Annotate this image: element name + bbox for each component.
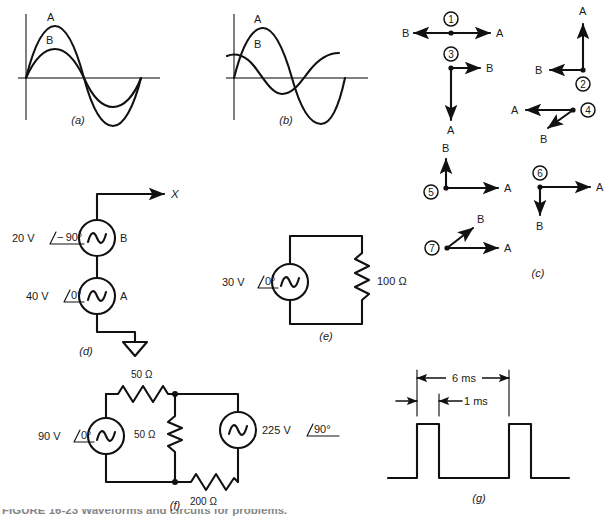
source-right-angle: 90° xyxy=(314,423,331,435)
phasor-4-label-a: A xyxy=(511,104,519,116)
source-magnitude: 30 V xyxy=(222,276,245,288)
phasor-3-origin xyxy=(448,65,453,70)
panel-e: 30 V 0° 100 Ω (e) xyxy=(222,228,412,343)
wire-bottom xyxy=(290,307,362,324)
period-label: 6 ms xyxy=(452,372,476,384)
phasor-5: A B 5 xyxy=(424,142,512,199)
phasor-5-label-a: A xyxy=(504,182,512,194)
panel-d-circuit: X B 20 V − 90° A 40 V 0° ( xyxy=(8,166,198,356)
phasor-2: A B 2 xyxy=(535,5,590,91)
source-right-sine xyxy=(229,425,247,435)
figure-caption-strip: FIGURE 16-23 Waveforms and circuits for … xyxy=(0,509,605,518)
phasor-1-origin xyxy=(448,30,453,35)
panel-c-caption: (c) xyxy=(532,267,545,279)
source-b-name: B xyxy=(120,232,127,244)
resistor-middle-symbol xyxy=(168,394,182,482)
panel-g: 6 ms 1 ms (g) xyxy=(384,356,599,506)
ground-icon xyxy=(123,342,147,356)
phasor-3-number: 3 xyxy=(448,49,454,60)
resistor-symbol xyxy=(355,253,369,307)
source-a-angle: 0° xyxy=(71,289,82,301)
panel-f: 50 Ω 50 Ω 200 Ω 90 V 0° xyxy=(8,366,343,511)
source-a-name: A xyxy=(120,290,128,302)
panel-f-circuit: 50 Ω 50 Ω 200 Ω 90 V 0° xyxy=(8,366,343,511)
pulse-train xyxy=(388,424,569,478)
phasor-6: A B 6 xyxy=(533,166,604,232)
panel-c-phasors: A B 1 A B 2 A B xyxy=(418,2,605,282)
panel-d: X B 20 V − 90° A 40 V 0° ( xyxy=(8,166,198,356)
source-b-angle: − 90° xyxy=(57,231,82,243)
panel-b-graph: A B (b) xyxy=(218,8,398,128)
phasor-6-origin xyxy=(537,184,542,189)
bottom-wire xyxy=(97,314,135,342)
phasor-7-origin xyxy=(444,245,449,250)
phasor-6-number: 6 xyxy=(537,168,543,179)
phasor-7: A B 7 xyxy=(425,213,512,255)
phasor-7-label-a: A xyxy=(504,242,512,254)
resistor-label: 100 Ω xyxy=(377,275,407,287)
panel-g-waveform: 6 ms 1 ms (g) xyxy=(384,356,599,506)
phasor-6-label-b: B xyxy=(536,220,543,232)
source-angle-group: 0° xyxy=(258,275,278,288)
resistor-top-symbol xyxy=(106,386,175,402)
phasor-4-arrow-b xyxy=(548,110,573,128)
top-wire xyxy=(97,194,148,220)
source-left-sine xyxy=(97,431,115,441)
source-left-magnitude: 90 V xyxy=(38,430,61,442)
phasor-4-number: 4 xyxy=(585,105,591,116)
phasor-3: A B 3 xyxy=(444,47,493,136)
panel-g-caption: (g) xyxy=(472,492,486,504)
phasor-2-label-a: A xyxy=(579,5,587,17)
source-b-magnitude: 20 V xyxy=(12,232,35,244)
resistor-bottom-symbol xyxy=(175,474,238,490)
phasor-5-origin xyxy=(443,185,448,190)
phasor-4: A B 4 xyxy=(511,103,595,145)
phasor-1-number: 1 xyxy=(448,14,454,25)
phasor-6-label-a: A xyxy=(596,181,604,193)
phasor-2-label-b: B xyxy=(535,64,542,76)
waveform-a-label: A xyxy=(254,13,262,25)
phasor-3-label-a: A xyxy=(447,124,455,136)
phasor-2-origin xyxy=(580,67,585,72)
source-b-angle-group: − 90° xyxy=(50,231,84,244)
panel-e-caption: (e) xyxy=(319,330,333,342)
waveform-b-label: B xyxy=(46,34,53,46)
panel-d-caption: (d) xyxy=(79,345,93,357)
phasor-4-origin xyxy=(570,107,575,112)
waveform-a xyxy=(234,28,345,124)
waveform-a-label: A xyxy=(47,11,55,23)
source-left-angle-group: 0° xyxy=(74,429,94,442)
pulse-width-label: 1 ms xyxy=(464,395,488,407)
resistor-bottom-label: 200 Ω xyxy=(190,496,217,507)
phasor-1-label-a: A xyxy=(496,27,504,39)
axis-label-x: X xyxy=(170,188,180,200)
wire-left-bottom xyxy=(106,454,175,482)
source-angle: 0° xyxy=(265,275,276,287)
phasor-5-number: 5 xyxy=(428,187,434,198)
source-a-sine xyxy=(88,291,106,301)
wire-top-right xyxy=(175,394,238,412)
node-top xyxy=(172,391,178,397)
source-a-magnitude: 40 V xyxy=(26,290,49,302)
figure-caption: FIGURE 16-23 Waveforms and circuits for … xyxy=(2,509,287,516)
panel-b: A B (b) xyxy=(218,8,398,128)
panel-a-graph: A B (a) xyxy=(10,8,190,128)
figure-container: A B (a) A B (b) xyxy=(0,0,605,518)
source-right-magnitude: 225 V xyxy=(262,424,291,436)
phasor-1-label-b: B xyxy=(402,27,409,39)
waveform-b-label: B xyxy=(254,38,261,50)
panel-a-caption: (a) xyxy=(71,114,85,126)
phasor-4-label-b: B xyxy=(540,133,547,145)
panel-e-circuit: 30 V 0° 100 Ω (e) xyxy=(222,228,412,343)
phasor-7-arrow-b xyxy=(447,228,473,248)
wire-top xyxy=(290,236,362,264)
source-left-angle: 0° xyxy=(81,429,92,441)
source-right-angle-group: 90° xyxy=(307,423,339,436)
phasor-7-label-b: B xyxy=(477,213,484,225)
phasor-2-number: 2 xyxy=(580,79,586,90)
panel-c: A B 1 A B 2 A B xyxy=(418,2,605,282)
phasor-7-number: 7 xyxy=(429,243,435,254)
phasor-1: A B 1 xyxy=(402,12,504,39)
phasor-3-label-b: B xyxy=(486,62,493,74)
phasor-5-label-b: B xyxy=(442,142,449,154)
